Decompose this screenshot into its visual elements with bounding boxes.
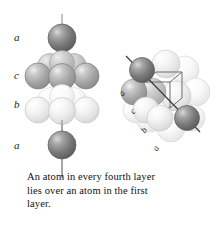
- layer-b-atoms: [25, 85, 99, 125]
- layer-label-a-top: a: [14, 32, 20, 43]
- atom-layer-a-bottom: [48, 131, 76, 159]
- corner-atom-bottom-right: [175, 106, 200, 131]
- atom-layer-a-top: [48, 24, 76, 52]
- layer-label-c: c: [14, 70, 19, 81]
- layer-label-a-bottom: a: [14, 140, 20, 151]
- figure-root: a c b a a c b a An atom in every fourth …: [0, 0, 212, 237]
- layer-label-b: b: [14, 99, 20, 110]
- figure-caption: An atom in every fourth layer lies over …: [27, 170, 157, 211]
- corner-atom-top-left: [130, 58, 155, 83]
